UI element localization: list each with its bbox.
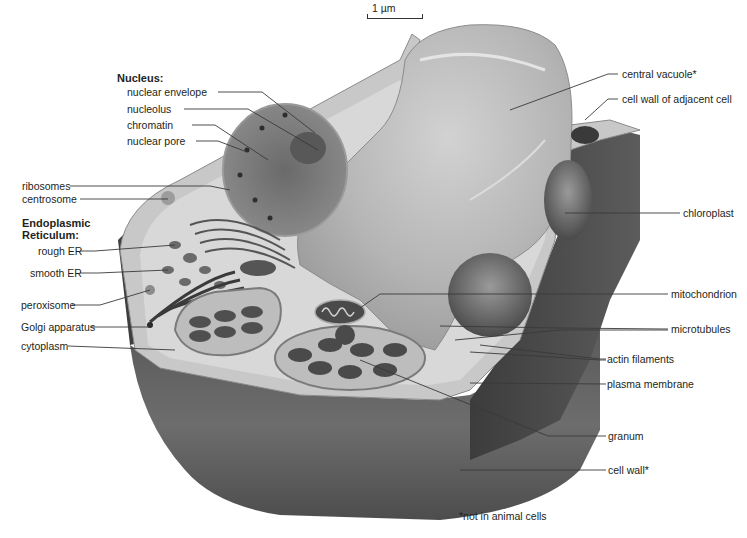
chloroplast-shape-1: [571, 126, 599, 144]
label-cell-wall: cell wall*: [608, 464, 649, 476]
label-nuclear-pore: nuclear pore: [127, 135, 185, 147]
scale-bar-label: 1 µm: [372, 2, 396, 14]
label-plasma-membrane: plasma membrane: [607, 378, 694, 390]
label-smooth-er: smooth ER: [30, 267, 82, 279]
nucleus-heading: Nucleus:: [117, 72, 163, 84]
centrosome-shape: [161, 191, 175, 205]
chloroplast-shape-2: [544, 160, 592, 240]
label-granum: granum: [608, 430, 644, 442]
label-chromatin: chromatin: [127, 119, 173, 131]
label-cytoplasm: cytoplasm: [21, 340, 68, 352]
plant-cell-illustration: [0, 0, 747, 538]
plant-cell-diagram: 1 µm Nucleus: Endoplasmic Reticulum: nuc…: [0, 0, 747, 538]
label-actin-filaments: actin filaments: [607, 353, 674, 365]
label-mitochondrion: mitochondrion: [671, 288, 737, 300]
label-microtubules: microtubules: [671, 323, 731, 335]
chloroplast-shape-3: [448, 253, 532, 337]
nucleus-shape: [223, 104, 347, 236]
label-central-vacuole: central vacuole*: [622, 68, 697, 80]
footnote: *not in animal cells: [459, 510, 547, 522]
label-nuclear-envelope: nuclear envelope: [127, 86, 207, 98]
er-heading: Endoplasmic Reticulum:: [22, 217, 90, 241]
label-peroxisome: peroxisome: [21, 299, 75, 311]
label-rough-er: rough ER: [38, 245, 82, 257]
mitochondrion-small: [240, 260, 276, 276]
label-ribosomes: ribosomes: [22, 180, 70, 192]
label-centrosome: centrosome: [22, 193, 77, 205]
label-cell-wall-adjacent: cell wall of adjacent cell: [622, 93, 732, 105]
label-nucleolus: nucleolus: [127, 103, 171, 115]
scale-bar: [367, 14, 423, 19]
label-golgi-apparatus: Golgi apparatus: [21, 321, 95, 333]
label-chloroplast: chloroplast: [683, 207, 734, 219]
